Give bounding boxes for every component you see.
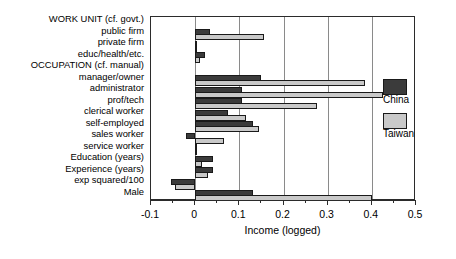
- x-tick-minor: [305, 200, 306, 203]
- category-label: administrator: [90, 82, 144, 94]
- x-tick-label: 0.4: [364, 208, 379, 220]
- legend-entry: China: [383, 79, 453, 105]
- bar-taiwan: [195, 57, 199, 63]
- category-label: self-employed: [86, 117, 144, 129]
- category-label: manager/owner: [79, 71, 144, 83]
- category-label: educ/health/etc.: [78, 48, 144, 60]
- category-label: Male: [124, 186, 144, 198]
- x-tick-minor: [172, 200, 173, 203]
- x-tick-label: 0: [191, 208, 197, 220]
- x-tick-major: [415, 200, 416, 205]
- bar-taiwan: [195, 46, 197, 52]
- bar-taiwan: [175, 184, 195, 190]
- category-label-column: WORK UNIT (cf. govt.)public firmprivate …: [0, 14, 148, 199]
- chart-figure: WORK UNIT (cf. govt.)public firmprivate …: [0, 0, 456, 259]
- category-label: clerical worker: [84, 105, 144, 117]
- x-tick-major: [327, 200, 328, 205]
- x-tick-minor: [393, 200, 394, 203]
- category-label: exp squared/100: [74, 174, 144, 186]
- category-label: service worker: [84, 140, 144, 152]
- category-label: WORK UNIT (cf. govt.): [49, 13, 144, 25]
- bar-taiwan: [195, 115, 246, 121]
- bar-taiwan: [195, 149, 197, 155]
- x-tick-major: [238, 200, 239, 205]
- x-axis: [150, 200, 415, 208]
- x-tick-label: 0.5: [408, 208, 423, 220]
- legend-swatch: [383, 79, 407, 95]
- category-label: sales worker: [91, 128, 144, 140]
- legend-label: China: [383, 94, 453, 105]
- bar-taiwan: [195, 138, 224, 144]
- bar-taiwan: [195, 161, 202, 167]
- category-label: private firm: [98, 36, 144, 48]
- bar-taiwan: [195, 103, 316, 109]
- bar-taiwan: [195, 172, 208, 178]
- x-tick-major: [371, 200, 372, 205]
- x-tick-label: 0.1: [231, 208, 246, 220]
- x-tick-minor: [260, 200, 261, 203]
- legend-entry: Taiwan: [383, 113, 453, 139]
- bar-taiwan: [195, 80, 365, 86]
- x-tick-label: 0.2: [275, 208, 290, 220]
- x-tick-label: -0.1: [141, 208, 159, 220]
- x-tick-major: [150, 200, 151, 205]
- category-label: Education (years): [71, 151, 144, 163]
- bar-taiwan: [195, 126, 259, 132]
- category-label: prof/tech: [108, 94, 144, 106]
- plot-area: [150, 16, 415, 200]
- legend-label: Taiwan: [383, 128, 453, 139]
- bar-taiwan: [195, 34, 263, 40]
- category-label: public firm: [101, 25, 144, 37]
- bar-china: [186, 133, 195, 139]
- bar-series-group: [151, 17, 414, 199]
- x-tick-minor: [349, 200, 350, 203]
- x-axis-title: Income (logged): [150, 224, 415, 236]
- bar-taiwan: [195, 92, 383, 98]
- category-label: Experience (years): [65, 163, 144, 175]
- x-tick-label: 0.3: [319, 208, 334, 220]
- x-tick-major: [283, 200, 284, 205]
- x-tick-major: [194, 200, 195, 205]
- legend: ChinaTaiwan: [383, 79, 453, 147]
- x-tick-minor: [216, 200, 217, 203]
- category-label: OCCUPATION (cf. manual): [31, 59, 144, 71]
- legend-swatch: [383, 113, 407, 129]
